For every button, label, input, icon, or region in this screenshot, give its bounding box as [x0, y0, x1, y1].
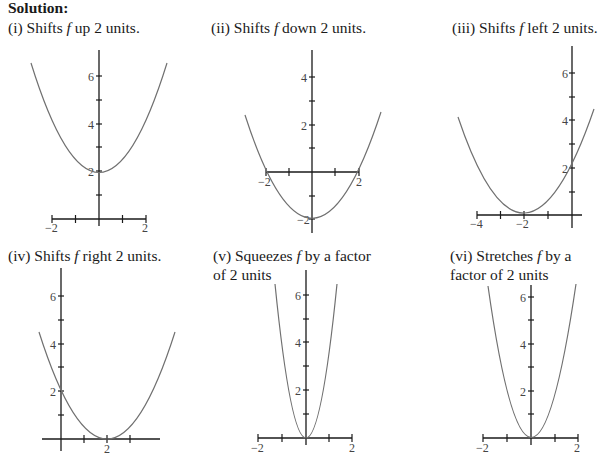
- tick-label: 2: [142, 221, 148, 235]
- tick-label: 2: [50, 385, 56, 399]
- tick-label: 2: [356, 175, 362, 189]
- tick-label: 4: [295, 336, 301, 350]
- tick-label: −2: [251, 441, 264, 455]
- tick-label: 4: [88, 118, 94, 132]
- tick-label: −2: [297, 213, 310, 227]
- tick-label: −2: [476, 441, 489, 455]
- tick-label: −2: [45, 221, 58, 235]
- tick-label: 4: [301, 71, 307, 85]
- graphs-canvas: −2 2 2 4 6 −2 2 2 4 −2: [0, 0, 612, 460]
- tick-label: 2: [301, 119, 307, 133]
- tick-label: 6: [88, 70, 94, 84]
- tick-label: 4: [50, 338, 56, 352]
- tick-label: −4: [470, 217, 483, 231]
- tick-label: 2: [520, 385, 526, 399]
- tick-label: 6: [562, 67, 568, 81]
- graph-ii: −2 2 2 4 −2: [245, 50, 381, 233]
- tick-label: −2: [258, 175, 271, 189]
- tick-label: 6: [50, 290, 56, 304]
- parabola-curve: [458, 109, 594, 213]
- tick-label: 2: [574, 441, 580, 455]
- tick-label: 6: [520, 291, 526, 305]
- parabola-curve: [39, 332, 175, 439]
- tick-label: 4: [562, 114, 568, 128]
- graph-iv: 2 2 4 6: [39, 268, 175, 456]
- graph-vi: −2 2 2 4 6: [476, 284, 580, 455]
- tick-label: 2: [295, 384, 301, 398]
- tick-label: 4: [520, 338, 526, 352]
- tick-label: −2: [516, 217, 529, 231]
- graph-i: −2 2 2 4 6: [31, 50, 167, 235]
- graph-iii: −4 −2 2 4 6: [458, 46, 594, 231]
- tick-label: 2: [349, 441, 355, 455]
- graph-v: −2 2 2 4 6: [251, 270, 355, 455]
- tick-label: 6: [295, 289, 301, 303]
- parabola-curve: [245, 112, 381, 218]
- tick-label: 2: [104, 442, 110, 456]
